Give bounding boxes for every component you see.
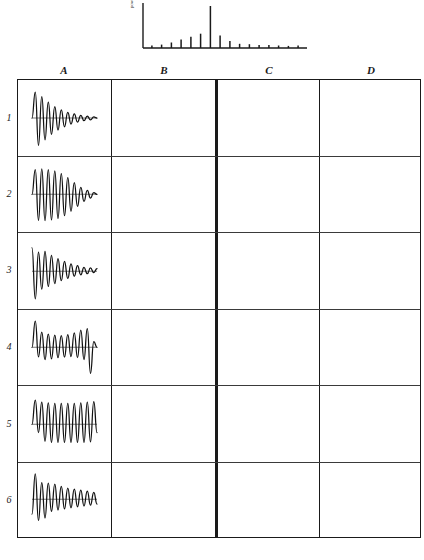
waveform-plot [18, 156, 111, 233]
panel-3a [18, 233, 111, 310]
column-header-c: C [217, 64, 321, 78]
waveform-plot [18, 233, 111, 310]
column-header-d: D [321, 64, 421, 78]
waveform-plot [18, 386, 111, 463]
row-label-3: 3 [2, 264, 16, 275]
column-header-b: B [111, 64, 217, 78]
row-label-6: 6 [2, 494, 16, 505]
row-label-1: 1 [2, 112, 16, 123]
spectrum-panel: power [131, 2, 311, 54]
panel-4a [18, 309, 111, 386]
waveform-plot [18, 462, 111, 537]
figure-root: power A B C D 1 2 3 4 5 6 [0, 0, 424, 560]
row-label-2: 2 [2, 188, 16, 199]
waveform-plot [18, 309, 111, 386]
panel-6a [18, 462, 111, 537]
waveform-plot [18, 80, 111, 156]
panel-5a [18, 386, 111, 463]
row-label-4: 4 [2, 341, 16, 352]
spectrum-stem-plot [141, 2, 311, 54]
panel-2a [18, 156, 111, 233]
panel-grid [17, 79, 421, 538]
row-label-5: 5 [2, 418, 16, 429]
panel-1a [18, 80, 111, 156]
column-header-a: A [17, 64, 111, 78]
panel-1b [112, 80, 215, 156]
